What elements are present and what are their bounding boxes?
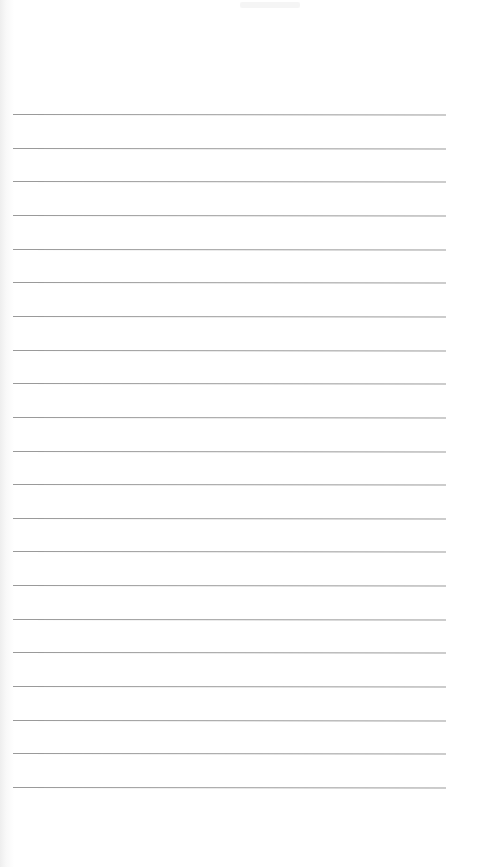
ruled-line (13, 686, 446, 687)
ruled-line (13, 585, 446, 586)
ruled-line (13, 753, 446, 754)
ruled-line (13, 249, 446, 250)
ruled-line (13, 417, 446, 418)
ruled-line (13, 316, 446, 317)
show-through-mark (240, 2, 300, 8)
ruled-line (13, 518, 446, 519)
ruled-line (13, 484, 446, 485)
ruled-line (13, 619, 446, 620)
ruled-line (13, 350, 446, 351)
ruled-line (13, 215, 446, 216)
ruled-line (13, 652, 446, 653)
ruled-line (13, 551, 446, 552)
ruled-line (13, 148, 446, 149)
ruled-line (13, 114, 446, 115)
ruled-line (13, 787, 446, 788)
lined-paper-page (0, 0, 498, 867)
ruled-line (13, 383, 446, 384)
ruled-line (13, 282, 446, 283)
ruled-line (13, 451, 446, 452)
ruled-line (13, 720, 446, 721)
ruled-line (13, 181, 446, 182)
